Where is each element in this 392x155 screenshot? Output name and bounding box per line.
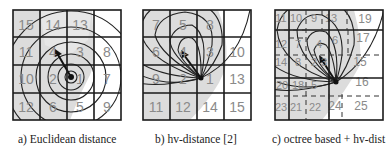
cell-label: 5 <box>179 17 187 33</box>
cell-label: 19 <box>358 12 372 26</box>
cell-label: 15 <box>353 55 367 69</box>
cell-label: 14 <box>45 17 61 33</box>
cell-label: 21 <box>290 101 302 113</box>
cell-label: 24 <box>328 99 342 113</box>
cell-label: 13 <box>72 17 88 33</box>
cell-label: 8 <box>103 44 111 60</box>
cell-label: 7 <box>295 38 301 50</box>
caption-c: c) octree based + hv-dist <box>272 133 385 145</box>
cell-label: 2 <box>179 71 187 87</box>
cell-label: 2 <box>49 71 57 87</box>
cell-label: 17 <box>356 31 370 45</box>
cell-label: 5 <box>311 79 317 91</box>
cell-label: 14 <box>275 56 287 68</box>
cell-label: 1 <box>206 71 214 87</box>
cell-label: 10 <box>18 71 34 87</box>
cell-label: 11 <box>149 99 164 115</box>
cell-label: 2 <box>311 56 317 68</box>
panel-euclidean-distance: 15 14 13 11 4 3 8 10 2 1 7 12 6 5 9 <box>0 0 130 155</box>
cell-label: 11 <box>275 12 286 24</box>
cell-label: 22 <box>309 101 321 113</box>
cell-label: 23 <box>275 101 287 113</box>
cell-label: 6 <box>152 44 160 60</box>
hv-distance-grid-diagram: 7 5 8 6 4 3 10 9 2 1 13 11 12 14 15 <box>130 0 260 130</box>
cell-label: 20 <box>276 79 288 91</box>
cell-label: 14 <box>202 99 218 115</box>
cell-label: 8 <box>295 56 301 68</box>
cell-label: 15 <box>229 99 245 115</box>
octree-grid-diagram: 11 10 9 13 19 12 7 4 6 17 14 8 15 20 18 … <box>262 0 392 130</box>
cell-label: 1 <box>76 71 84 87</box>
cell-label: 6 <box>332 34 338 46</box>
cell-label: 18 <box>292 79 304 91</box>
cell-label: 9 <box>103 99 111 115</box>
cell-label: 3 <box>206 44 214 60</box>
cell-label: 25 <box>354 99 368 113</box>
cell-label: 8 <box>206 17 214 33</box>
cell-label: 4 <box>179 44 187 60</box>
caption-b: b) hv-distance [2] <box>155 133 237 145</box>
panel-hv-distance: 7 5 8 6 4 3 10 9 2 1 13 11 12 14 15 <box>130 0 260 155</box>
caption-a: a) Euclidean distance <box>18 133 116 145</box>
cell-label: 5 <box>76 99 84 115</box>
euclidean-grid-diagram: 15 14 13 11 4 3 8 10 2 1 7 12 6 5 9 <box>0 0 130 130</box>
cell-label: 12 <box>175 99 191 115</box>
cell-label: 13 <box>325 12 337 24</box>
cell-label: 3 <box>76 44 84 60</box>
cell-label: 12 <box>18 99 34 115</box>
cell-label: 15 <box>18 17 34 33</box>
cell-label: 6 <box>49 99 57 115</box>
cell-label: 9 <box>311 12 317 24</box>
cell-label: 16 <box>355 75 369 89</box>
cell-label: 4 <box>49 44 57 60</box>
cell-label: 7 <box>152 17 160 33</box>
cell-label: 12 <box>275 38 287 50</box>
cell-label: 7 <box>103 71 111 87</box>
cell-label: 4 <box>316 38 322 50</box>
cell-label: 13 <box>229 71 245 87</box>
cell-label: 11 <box>19 44 34 60</box>
cell-label: 9 <box>152 71 160 87</box>
cell-label: 10 <box>290 12 302 24</box>
cell-label: 3 <box>321 56 327 68</box>
panel-octree-hv-distance: 11 10 9 13 19 12 7 4 6 17 14 8 15 20 18 … <box>262 0 392 155</box>
cell-label: 10 <box>229 44 245 60</box>
